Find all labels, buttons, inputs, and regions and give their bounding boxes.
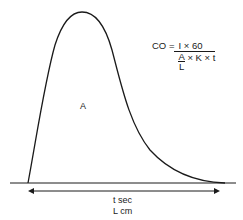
arrow-right-icon	[214, 188, 220, 194]
area-over-length: A L	[178, 52, 184, 71]
length-symbol: L	[178, 62, 184, 71]
dilution-curve-diagram	[0, 0, 243, 220]
formula-denominator: A L × K × t	[174, 52, 215, 71]
time-label: t sec	[113, 195, 132, 205]
double-arrow	[28, 188, 220, 194]
cardiac-output-formula: CO = I × 60 A L × K × t	[152, 40, 215, 71]
formula-lhs: CO	[152, 40, 166, 51]
arrow-left-icon	[28, 188, 34, 194]
area-label: A	[80, 101, 86, 111]
formula-fraction: I × 60 A L × K × t	[174, 40, 215, 71]
concentration-curve	[28, 12, 225, 183]
denominator-rest: × K × t	[187, 52, 215, 63]
length-label: L cm	[113, 206, 132, 216]
